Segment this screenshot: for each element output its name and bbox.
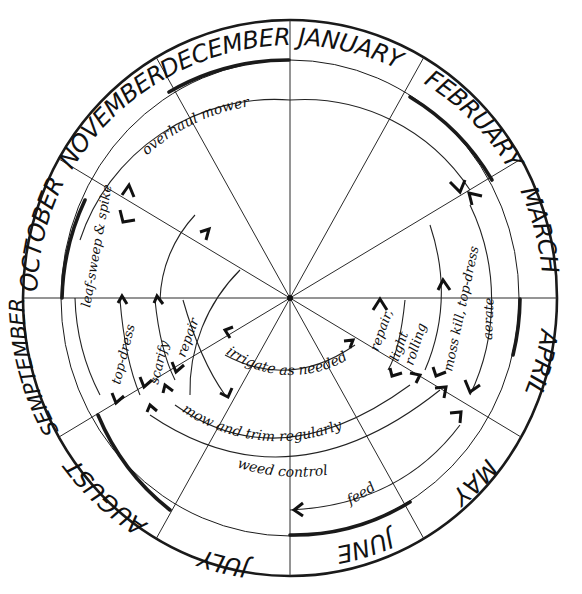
task-irrigate: irrigate as needed	[224, 343, 350, 378]
arrow-up-icon	[147, 405, 157, 412]
arrow-up-icon	[450, 412, 461, 423]
arrow-down-icon	[112, 393, 124, 403]
task-aerate: aerate	[480, 297, 496, 340]
center-dot	[287, 295, 293, 301]
lawn-care-calendar-wheel: JANUARY FEBRUARY MARCH APRIL MAY JUNE JU…	[0, 0, 582, 594]
month-label-january: JANUARY	[294, 23, 410, 76]
arrow-up-icon	[122, 185, 134, 197]
month-label-december: DECEMBER	[155, 23, 290, 84]
activity-arcs	[75, 99, 492, 510]
month-label-november: NOVEMBER	[53, 59, 169, 173]
month-label-april: APRIL	[519, 326, 563, 400]
arrow-up-icon	[410, 373, 420, 383]
month-label-september: SEMPTEMBER	[5, 298, 63, 440]
month-label-may: MAY	[445, 454, 503, 512]
arrow-down-icon	[450, 180, 465, 192]
arrow-up-icon	[200, 229, 209, 240]
arrow-up-icon	[438, 280, 450, 290]
task-overhaul-mower: overhaul mower	[138, 93, 251, 157]
arrow-down-icon	[220, 388, 232, 397]
arrow-down-icon	[465, 380, 480, 392]
arrow-up-icon	[469, 193, 482, 205]
task-repair-autumn: repair	[174, 315, 202, 359]
task-mow-trim: mow and trim regularly	[180, 400, 345, 444]
task-weed-control: weed control	[236, 455, 329, 480]
arrow-up-icon	[373, 299, 387, 310]
task-labels: overhaul mower irrigate as needed mow an…	[78, 93, 496, 508]
month-label-august: AUGUST	[57, 451, 152, 542]
month-label-february: FEBRUARY	[420, 65, 529, 176]
arrow-up-icon	[118, 296, 127, 304]
june-marker	[290, 502, 410, 535]
arrow-up-icon	[163, 385, 173, 393]
arrow-right-icon	[344, 340, 353, 348]
task-feed: feed	[343, 478, 378, 508]
month-label-march: MARCH	[515, 182, 564, 275]
arrow-down-icon	[120, 210, 135, 222]
arrow-up-icon	[154, 296, 163, 304]
april-marker	[513, 299, 520, 355]
arrow-down-icon	[172, 362, 184, 372]
month-label-july: JULY	[193, 543, 254, 583]
task-moss-kill-top-dress: moss kill, top-dress	[440, 244, 481, 372]
arrow-down-icon	[390, 368, 402, 376]
